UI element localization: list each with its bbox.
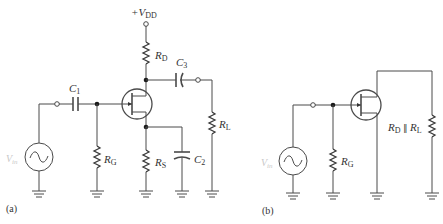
circuit-a: Vin C1 RG: [6, 6, 231, 215]
svg-text:Vin: Vin: [261, 157, 273, 170]
resistor-rl-a: RL: [209, 80, 231, 191]
ground-icon: [32, 191, 46, 197]
ground-icons-b: [286, 193, 439, 199]
circuit-diagram: Vin C1 RG: [0, 0, 443, 224]
resistor-rd-a: +VDD RD: [131, 6, 168, 80]
capacitor-c3: C3: [146, 56, 196, 87]
output-terminal-a: [196, 78, 201, 83]
input-terminal-b: [311, 103, 316, 108]
svg-text:C3: C3: [176, 56, 187, 70]
ground-icons-a: [32, 191, 219, 197]
svg-text:Vin: Vin: [6, 153, 18, 166]
ground-icon: [205, 191, 219, 197]
svg-text:RD: RD: [154, 49, 168, 63]
svg-text:C2: C2: [194, 153, 205, 167]
svg-text:RG: RG: [340, 155, 354, 169]
ground-icon: [90, 191, 104, 197]
svg-text:RL: RL: [218, 118, 231, 132]
svg-text:RD ∥ RL: RD ∥ RL: [387, 121, 422, 135]
resistor-rs-a: RS: [143, 127, 166, 191]
svg-text:RS: RS: [154, 156, 166, 170]
ground-icon: [175, 191, 189, 197]
resistor-rg-b: RG: [330, 105, 354, 193]
input-terminal-a: [55, 102, 60, 107]
vdd-terminal: [144, 22, 149, 27]
ac-source-a: Vin: [6, 104, 53, 191]
sine-icon: [284, 156, 302, 166]
jfet-transistor-b: [351, 71, 381, 193]
vdd-label: +V: [131, 6, 146, 18]
caption-a: (a): [6, 203, 17, 215]
ground-icon: [286, 193, 300, 199]
caption-b: (b): [262, 205, 274, 217]
ground-icon: [326, 193, 340, 199]
svg-text:+VDD: +VDD: [131, 6, 157, 20]
ac-source-b: Vin: [261, 105, 307, 193]
resistor-rd-parallel-rl: RD ∥ RL: [387, 71, 435, 193]
ground-icon: [425, 193, 439, 199]
ground-icon: [370, 193, 384, 199]
jfet-transistor-a: [122, 80, 152, 127]
ground-icon: [139, 191, 153, 197]
resistor-rg-a: RG: [94, 104, 117, 191]
svg-text:C1: C1: [69, 82, 80, 96]
svg-text:RG: RG: [103, 153, 117, 167]
circuit-b: Vin RG RD ∥ RL: [261, 71, 439, 217]
sine-icon: [30, 152, 48, 162]
capacitor-c1: C1: [69, 82, 80, 111]
